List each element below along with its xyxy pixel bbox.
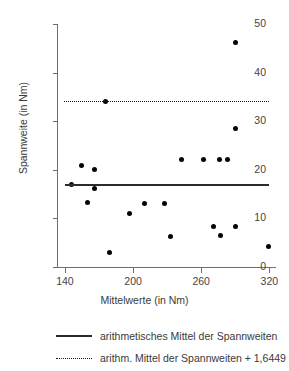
scatter-chart-figure: 01020304050 140200260320 Spannweite (in … — [0, 0, 289, 371]
y-tick-label: 20 — [226, 164, 266, 175]
x-tick-label: 200 — [113, 276, 153, 287]
x-tick-mark — [65, 268, 66, 273]
data-point — [107, 250, 112, 255]
dotted-line-swatch-icon — [56, 358, 92, 359]
data-point — [142, 201, 147, 206]
data-point — [233, 224, 238, 229]
data-point — [233, 40, 238, 45]
x-tick-label: 320 — [249, 276, 289, 287]
legend-label-mean: arithmetisches Mittel der Spannweiten — [100, 330, 277, 342]
y-tick-mark — [53, 267, 57, 268]
data-point — [79, 163, 84, 168]
x-tick-mark — [133, 268, 134, 273]
y-axis-title: Spannweite (in Nm) — [17, 53, 29, 203]
data-point — [168, 234, 173, 239]
y-tick-mark — [53, 24, 57, 25]
data-point — [266, 244, 271, 249]
data-point — [225, 157, 230, 162]
x-tick-mark — [201, 268, 202, 273]
data-point — [217, 157, 222, 162]
data-point — [162, 201, 167, 206]
y-tick-label: 30 — [226, 115, 266, 126]
x-axis-title: Mittelwerte (in Nm) — [0, 294, 289, 306]
y-tick-label: 40 — [226, 67, 266, 78]
chart-legend: arithmetisches Mittel der Spannweiten ar… — [0, 325, 289, 369]
y-tick-label: 0 — [226, 261, 266, 272]
data-point — [85, 200, 90, 205]
x-tick-label: 260 — [181, 276, 221, 287]
threshold-reference-line — [64, 101, 270, 102]
y-tick-label: 10 — [226, 212, 266, 223]
data-point — [233, 126, 238, 131]
x-tick-label: 140 — [45, 276, 85, 287]
y-tick-mark — [53, 121, 57, 122]
data-point — [92, 186, 97, 191]
y-tick-mark — [53, 73, 57, 74]
data-point — [201, 157, 206, 162]
plot-area: 01020304050 140200260320 — [57, 24, 275, 267]
y-axis-line — [57, 24, 58, 268]
mean-reference-line — [65, 184, 269, 186]
data-point — [218, 233, 223, 238]
legend-label-threshold: arithm. Mittel der Spannweiten + 1,6449 … — [100, 352, 289, 364]
data-point — [92, 167, 97, 172]
legend-item-mean: arithmetisches Mittel der Spannweiten — [0, 325, 289, 347]
data-point — [211, 224, 216, 229]
legend-item-threshold: arithm. Mittel der Spannweiten + 1,6449 … — [0, 347, 289, 369]
y-tick-mark — [53, 218, 57, 219]
y-tick-label: 50 — [226, 18, 266, 29]
data-point — [127, 211, 132, 216]
x-tick-mark — [269, 268, 270, 273]
y-tick-mark — [53, 170, 57, 171]
data-point — [179, 157, 184, 162]
solid-line-swatch-icon — [56, 335, 92, 337]
